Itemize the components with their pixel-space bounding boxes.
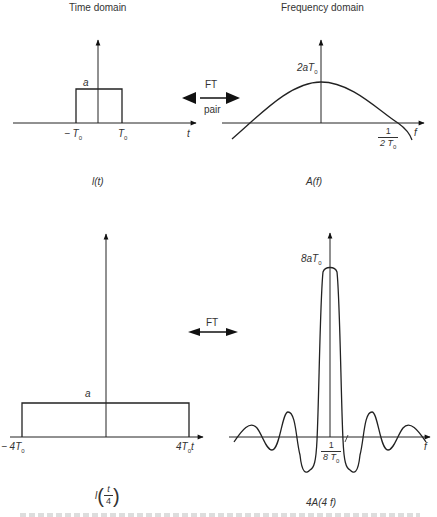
top-f-axis-label: f bbox=[414, 127, 417, 138]
diagram-canvas bbox=[0, 0, 437, 517]
bottom-freq-plot bbox=[229, 233, 430, 472]
ft-label-bottom: FT bbox=[206, 317, 218, 328]
bottom-peak-label: 8aT0 bbox=[301, 253, 322, 266]
top-amplitude-label: a bbox=[83, 77, 89, 88]
top-t-axis-label: t bbox=[187, 128, 190, 139]
top-ft-arrows bbox=[182, 92, 240, 104]
pair-label: pair bbox=[204, 104, 221, 115]
rect-pulse bbox=[76, 89, 122, 123]
top-time-caption: l(t) bbox=[92, 176, 104, 187]
top-time-plot bbox=[13, 40, 196, 123]
bottom-time-caption: l ( t 4 ) bbox=[95, 484, 120, 507]
top-freq-plot bbox=[222, 40, 424, 140]
frequency-domain-header: Frequency domain bbox=[281, 2, 364, 13]
tick-leader bbox=[345, 435, 348, 442]
top-left-tick: − T0 bbox=[64, 128, 82, 141]
top-zero-tick: 1 2 T0 bbox=[378, 126, 398, 153]
bottom-ft-arrows bbox=[188, 328, 238, 336]
bottom-zero-tick: 1 8 T0 bbox=[321, 440, 341, 467]
top-right-tick: T0 bbox=[118, 128, 127, 141]
bottom-right-tick: 4T0t bbox=[176, 441, 194, 454]
ft-label-top: FT bbox=[205, 79, 217, 90]
time-domain-header: Time domain bbox=[69, 2, 126, 13]
bottom-left-tick: − 4T0 bbox=[1, 441, 25, 454]
bottom-f-axis-label: f bbox=[424, 441, 427, 452]
top-freq-caption: A(f) bbox=[306, 176, 322, 187]
top-peak-label: 2aT0 bbox=[297, 62, 318, 75]
bottom-freq-caption: 4A(4 f) bbox=[306, 497, 336, 508]
bottom-time-plot bbox=[10, 234, 203, 437]
clipped-figure-caption bbox=[20, 513, 420, 517]
bottom-amplitude-label: a bbox=[85, 388, 91, 399]
